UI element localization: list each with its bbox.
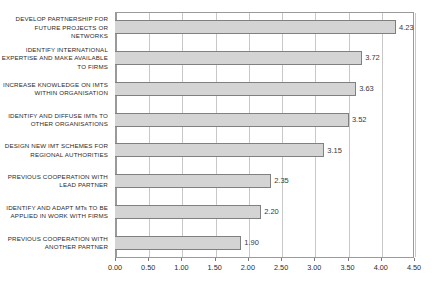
bar-group: 3.72 bbox=[115, 49, 414, 67]
bar-group: 3.52 bbox=[115, 111, 414, 129]
x-tick-label: 3.50 bbox=[340, 263, 354, 272]
bar-value-label: 3.72 bbox=[365, 54, 380, 62]
bar-group: 3.15 bbox=[115, 141, 414, 159]
bar bbox=[115, 82, 356, 96]
bar bbox=[115, 113, 349, 127]
x-tick-label: 2.00 bbox=[241, 263, 255, 272]
x-tick-label: 2.50 bbox=[274, 263, 288, 272]
category-label: IDENTIFY INTERNATIONAL EXPERTISE AND MAK… bbox=[0, 46, 108, 71]
bar-group: 2.35 bbox=[115, 172, 414, 190]
bar-value-label: 3.15 bbox=[327, 147, 342, 155]
bar-group: 1.90 bbox=[115, 234, 414, 252]
category-axis-labels: DEVELOP PARTNERSHIP FOR FUTURE PROJECTS … bbox=[0, 12, 112, 258]
bar-value-label: 3.63 bbox=[359, 85, 374, 93]
x-tick-mark bbox=[148, 258, 149, 261]
x-tick-label: 1.50 bbox=[208, 263, 222, 272]
bars-container: 4.233.723.633.523.152.352.201.90 bbox=[115, 12, 414, 258]
category-label: DESIGN NEW IMT SCHEMES FOR REGIONAL AUTH… bbox=[0, 142, 108, 158]
x-tick-mark bbox=[348, 258, 349, 261]
bar bbox=[115, 20, 396, 34]
category-label: PREVIOUS COOPERATION WITH LEAD PARTNER bbox=[0, 173, 108, 189]
x-tick-mark bbox=[381, 258, 382, 261]
bar-chart: DEVELOP PARTNERSHIP FOR FUTURE PROJECTS … bbox=[0, 0, 436, 284]
gridline bbox=[415, 13, 416, 257]
bar-group: 3.63 bbox=[115, 80, 414, 98]
x-tick-mark bbox=[414, 258, 415, 261]
bar-value-label: 2.20 bbox=[264, 208, 279, 216]
bar bbox=[115, 174, 271, 188]
category-label: IDENTIFY AND ADAPT MTs TO BE APPLIED IN … bbox=[0, 204, 108, 220]
x-tick-label: 1.00 bbox=[174, 263, 188, 272]
x-tick-mark bbox=[314, 258, 315, 261]
bar bbox=[115, 143, 324, 157]
x-tick-label: 3.00 bbox=[307, 263, 321, 272]
bar bbox=[115, 236, 241, 250]
x-tick-mark bbox=[181, 258, 182, 261]
bar-group: 4.23 bbox=[115, 18, 414, 36]
category-label: IDENTIFY AND DIFFUSE IMTs TO OTHER ORGAN… bbox=[0, 111, 108, 127]
x-tick-mark bbox=[281, 258, 282, 261]
bar-value-label: 1.90 bbox=[244, 239, 259, 247]
x-tick-mark bbox=[215, 258, 216, 261]
category-label: DEVELOP PARTNERSHIP FOR FUTURE PROJECTS … bbox=[0, 15, 108, 40]
x-axis: 0.000.501.001.502.002.503.003.504.004.50 bbox=[115, 258, 414, 280]
x-tick-mark bbox=[248, 258, 249, 261]
category-label: INCREASE KNOWLEDGE ON IMTS WITHIN ORGANI… bbox=[0, 81, 108, 97]
x-tick-label: 4.00 bbox=[374, 263, 388, 272]
bar-value-label: 4.23 bbox=[399, 24, 414, 32]
x-tick-label: 4.50 bbox=[407, 263, 421, 272]
bar-group: 2.20 bbox=[115, 203, 414, 221]
category-label: PREVIOUS COOPERATION WITH ANOTHER PARTNE… bbox=[0, 234, 108, 250]
x-tick-label: 0.00 bbox=[108, 263, 122, 272]
x-tick-mark bbox=[115, 258, 116, 261]
x-tick-label: 0.50 bbox=[141, 263, 155, 272]
bar bbox=[115, 51, 362, 65]
bar bbox=[115, 205, 261, 219]
bar-value-label: 3.52 bbox=[352, 116, 367, 124]
bar-value-label: 2.35 bbox=[274, 177, 289, 185]
